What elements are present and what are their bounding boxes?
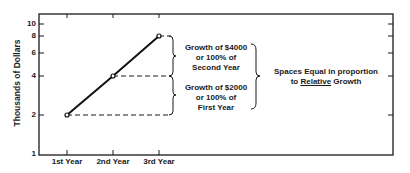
reference-dashes xyxy=(67,36,171,115)
y-axis-label: Thousands of Dollars xyxy=(12,28,22,138)
annotation-line: Growth of $2000 xyxy=(176,83,256,93)
annotation-line: or 100% of xyxy=(176,53,256,63)
annotation-line: Spaces Equal in proportion xyxy=(256,67,396,77)
upper-brace-icon xyxy=(169,36,176,76)
x-tick-label: 3rd Year xyxy=(137,157,181,166)
x-tick-label: 2nd Year xyxy=(91,157,135,166)
x-axis-ticks xyxy=(67,14,159,155)
chart: Thousands of Dollars 10 8 6 4 2 1 1st Ye… xyxy=(0,0,410,173)
emphasis-text: Relative xyxy=(300,77,331,86)
y-tick-label: 4 xyxy=(24,71,36,80)
relative-growth-annotation: Spaces Equal in proportion to Relative G… xyxy=(256,67,396,87)
y-tick-label: 10 xyxy=(24,19,36,28)
y-tick-label: 8 xyxy=(24,31,36,40)
annotation-line: or 100% of xyxy=(176,93,256,103)
y-axis-ticks xyxy=(39,24,44,115)
annotation-text: Growth xyxy=(331,77,361,86)
annotation-line: Second Year xyxy=(176,63,256,73)
lower-growth-annotation: Growth of $2000 or 100% of First Year xyxy=(176,83,256,113)
annotation-line: to Relative Growth xyxy=(256,77,396,87)
y-tick-label: 2 xyxy=(24,110,36,119)
annotation-text: to xyxy=(291,77,301,86)
x-tick-label: 1st Year xyxy=(45,157,89,166)
lower-brace-icon xyxy=(169,76,176,115)
y-tick-label: 6 xyxy=(24,48,36,57)
annotation-line: First Year xyxy=(176,103,256,113)
upper-growth-annotation: Growth of $4000 or 100% of Second Year xyxy=(176,43,256,73)
annotation-line: Growth of $4000 xyxy=(176,43,256,53)
y-tick-label: 1 xyxy=(24,149,36,158)
